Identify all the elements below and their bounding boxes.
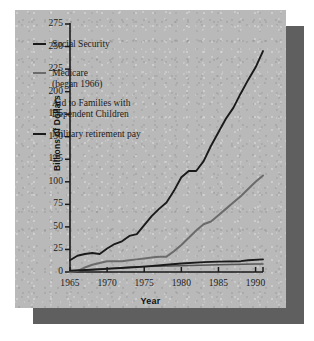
x-tick-label: 1975 [127, 278, 161, 288]
legend-item: Social Security [52, 39, 110, 50]
legend-item-sublabel: Dependent Children [52, 109, 130, 120]
legend-item: Aid to Families withDependent Children [52, 98, 130, 119]
legend-item: Medicare(began 1966) [52, 68, 102, 89]
chart-figure: 0255075100125150175200225250275 19651970… [0, 0, 314, 341]
y-tick-label: 0 [29, 266, 63, 276]
legend-item-label: Medicare [52, 68, 102, 79]
x-tick-label: 1965 [53, 278, 87, 288]
series-line [70, 176, 263, 272]
legend-item-label: Aid to Families with [52, 98, 130, 109]
legend-item-label: Social Security [52, 39, 110, 50]
x-tick-label: 1980 [164, 278, 198, 288]
legend-swatch [33, 43, 46, 45]
legend-swatch [33, 72, 46, 74]
x-tick-label: 1985 [201, 278, 235, 288]
x-axis-title: Year [15, 296, 286, 306]
legend-item-label: Military retirement pay [52, 129, 141, 140]
y-tick-label: 275 [29, 18, 63, 28]
y-tick-label: 50 [29, 221, 63, 231]
y-tick-label: 25 [29, 243, 63, 253]
x-tick-label: 1990 [239, 278, 273, 288]
y-tick-label: 75 [29, 198, 63, 208]
x-tick-label: 1970 [90, 278, 124, 288]
axes-layer [65, 23, 263, 272]
legend-swatch [33, 133, 46, 135]
legend-item-sublabel: (began 1966) [52, 79, 102, 90]
chart-panel: 0255075100125150175200225250275 19651970… [15, 10, 286, 308]
legend-item: Military retirement pay [52, 129, 141, 140]
